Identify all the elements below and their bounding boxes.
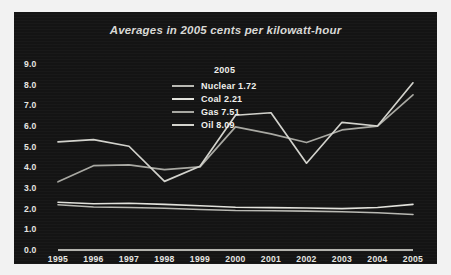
y-axis-tick-9-0: 9.0 [24, 59, 54, 69]
x-axis-tick-1999: 1999 [190, 254, 210, 264]
x-axis-tick-labels: 1995199619971998199920002001200220032004… [58, 254, 413, 264]
legend-label-nuclear: Nuclear 1.72 [201, 81, 256, 91]
x-axis-tick-2004: 2004 [367, 254, 387, 264]
legend-title: 2005 [214, 65, 312, 75]
x-axis-tick-1998: 1998 [154, 254, 174, 264]
chart-figure: Averages in 2005 cents per kilowatt-hour… [0, 0, 451, 275]
legend-label-gas: Gas 7.51 [201, 107, 240, 117]
chart-title: Averages in 2005 cents per kilowatt-hour [14, 24, 437, 36]
y-axis-tick-8-0: 8.0 [24, 80, 54, 90]
x-axis-tick-2001: 2001 [261, 254, 281, 264]
x-axis-tick-2002: 2002 [296, 254, 316, 264]
legend-entry-nuclear: Nuclear 1.72 [172, 80, 312, 92]
legend-entry-gas: Gas 7.51 [172, 106, 312, 118]
x-axis-tick-1997: 1997 [119, 254, 139, 264]
series-line-nuclear [58, 205, 413, 215]
legend-entry-coal: Coal 2.21 [172, 93, 312, 105]
x-axis-tick-1995: 1995 [48, 254, 68, 264]
legend-swatch-nuclear-icon [172, 85, 194, 87]
y-axis-tick-3-0: 3.0 [24, 183, 54, 193]
y-axis-tick-5-0: 5.0 [24, 142, 54, 152]
x-axis-tick-2003: 2003 [332, 254, 352, 264]
legend-swatch-coal-icon [172, 98, 194, 100]
legend-entry-list: Nuclear 1.72Coal 2.21Gas 7.51Oil 8.09 [172, 80, 312, 131]
y-axis-tick-2-0: 2.0 [24, 204, 54, 214]
x-axis-tick-1996: 1996 [83, 254, 103, 264]
x-axis-tick-2005: 2005 [403, 254, 423, 264]
legend-swatch-oil-icon [172, 124, 194, 126]
y-axis-tick-1-0: 1.0 [24, 224, 54, 234]
y-axis-tick-4-0: 4.0 [24, 162, 54, 172]
legend-label-oil: Oil 8.09 [201, 120, 235, 130]
legend-label-coal: Coal 2.21 [201, 94, 242, 104]
y-axis-tick-7-0: 7.0 [24, 100, 54, 110]
x-axis-tick-2000: 2000 [225, 254, 245, 264]
legend-entry-oil: Oil 8.09 [172, 119, 312, 131]
chart-panel: Averages in 2005 cents per kilowatt-hour… [14, 12, 437, 264]
y-axis-tick-labels: 9.08.07.06.05.04.03.02.01.00.0 [22, 64, 54, 250]
y-axis-tick-6-0: 6.0 [24, 121, 54, 131]
chart-legend: 2005 Nuclear 1.72Coal 2.21Gas 7.51Oil 8.… [172, 65, 312, 132]
legend-swatch-gas-icon [172, 111, 194, 113]
